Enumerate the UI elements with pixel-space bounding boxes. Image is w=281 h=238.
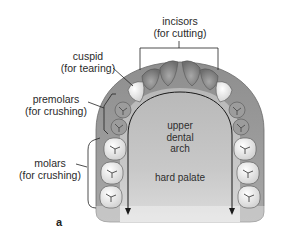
dental-arch-illustration <box>0 0 281 238</box>
panel-label: a <box>56 216 62 228</box>
molars-name: molars <box>18 157 82 169</box>
premolars-name: premolars <box>24 93 88 105</box>
molars-function: (for crushing) <box>18 169 82 181</box>
hard-palate-label: hard palate <box>150 172 210 184</box>
cuspid-function: (for tearing) <box>60 62 116 74</box>
incisors-name: incisors <box>152 15 208 27</box>
molars-label: molars (for crushing) <box>18 157 82 181</box>
arch-label-line3: arch <box>160 143 200 155</box>
arch-label-line2: dental <box>160 132 200 144</box>
incisors-label: incisors (for cutting) <box>152 15 208 39</box>
cuspid-label: cuspid (for tearing) <box>60 50 116 74</box>
upper-dental-arch-label: upper dental arch <box>160 120 200 155</box>
cuspid-name: cuspid <box>60 50 116 62</box>
arch-label-line1: upper <box>160 120 200 132</box>
premolars-function: (for crushing) <box>24 105 88 117</box>
incisors-function: (for cutting) <box>152 27 208 39</box>
premolars-label: premolars (for crushing) <box>24 93 88 117</box>
